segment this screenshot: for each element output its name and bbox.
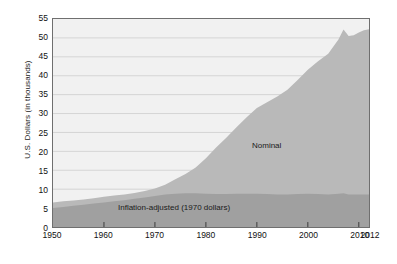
- y-tick-label: 30: [4, 113, 48, 122]
- y-tick-label: 55: [4, 18, 48, 27]
- y-tick-label: 10: [4, 190, 48, 199]
- y-tick-value: 20: [39, 147, 48, 157]
- y-tick-label: 35: [4, 94, 48, 103]
- plot-area: [52, 18, 370, 228]
- series-label-nominal: Nominal: [252, 141, 281, 150]
- x-axis-ticks: 19501960197019801990200020102012: [52, 231, 370, 251]
- y-tick-value: 55: [39, 13, 48, 23]
- y-tick-label: 15: [4, 171, 48, 180]
- x-tick-label: 1950: [43, 231, 62, 240]
- y-tick-value: 50: [39, 32, 48, 42]
- series-label-inflation-adjusted: Inflation-adjusted (1970 dollars): [118, 203, 230, 212]
- y-tick-label: 5: [4, 209, 48, 218]
- x-tick-label: 1970: [145, 231, 164, 240]
- y-tick-value: 5: [43, 204, 48, 214]
- y-tick-label: 0: [4, 228, 48, 237]
- area-chart-svg: [53, 19, 369, 227]
- y-tick-value: 35: [39, 89, 48, 99]
- x-tick-label: 1990: [248, 231, 267, 240]
- y-tick-label: 25: [4, 133, 48, 142]
- y-tick-value: 10: [39, 185, 48, 195]
- chart-container: U.S. Dollars (in thousands) 051015202530…: [0, 0, 397, 264]
- x-tick-label: 1960: [94, 231, 113, 240]
- y-tick-label: 20: [4, 152, 48, 161]
- x-tick-label: 2012: [361, 231, 380, 240]
- y-tick-value: 15: [39, 166, 48, 176]
- x-tick-label: 1980: [196, 231, 215, 240]
- y-tick-value: 25: [39, 128, 48, 138]
- x-tick-label: 2000: [299, 231, 318, 240]
- y-tick-value: 30: [39, 108, 48, 118]
- y-tick-value: 45: [39, 51, 48, 61]
- y-tick-label: 40: [4, 75, 48, 84]
- y-tick-value: 40: [39, 70, 48, 80]
- y-tick-label: 45: [4, 56, 48, 65]
- y-tick-label: 50: [4, 37, 48, 46]
- y-axis-ticks: 0510152025303540455055: [0, 18, 48, 228]
